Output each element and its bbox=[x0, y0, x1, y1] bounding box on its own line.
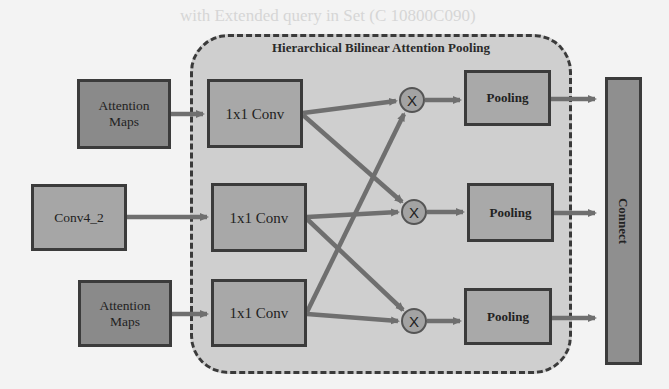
multiply-symbol: X bbox=[407, 92, 417, 109]
conv4-2-label: Conv4_2 bbox=[54, 210, 104, 226]
multiply-symbol: X bbox=[409, 313, 419, 330]
conv-1x1-a-label: 1x1 Conv bbox=[226, 106, 285, 122]
conv-1x1-b-label: 1x1 Conv bbox=[230, 210, 289, 226]
connect-label: Connect bbox=[615, 198, 631, 244]
pooling-3-box: Pooling bbox=[464, 288, 552, 345]
arrow-conv-c-to-x3 bbox=[307, 314, 398, 321]
multiply-icon-2: X bbox=[401, 199, 427, 225]
conv-1x1-a-box: 1x1 Conv bbox=[207, 79, 303, 148]
attention-maps-bottom-label: Attention Maps bbox=[90, 298, 160, 330]
attention-maps-top-box: Attention Maps bbox=[77, 79, 171, 149]
multiply-icon-3: X bbox=[401, 308, 427, 334]
arrow-conv-a-to-x2 bbox=[303, 115, 402, 202]
pooling-2-box: Pooling bbox=[467, 183, 554, 242]
pooling-1-box: Pooling bbox=[464, 70, 551, 126]
pooling-2-label: Pooling bbox=[490, 205, 532, 221]
multiply-symbol: X bbox=[409, 204, 419, 221]
arrow-conv-a-to-x1 bbox=[303, 101, 396, 113]
conv-1x1-b-box: 1x1 Conv bbox=[211, 183, 307, 252]
attention-maps-top-label: Attention Maps bbox=[89, 98, 159, 130]
multiply-icon-1: X bbox=[399, 87, 425, 113]
conv-1x1-c-label: 1x1 Conv bbox=[230, 305, 289, 321]
conv-1x1-c-box: 1x1 Conv bbox=[211, 279, 307, 347]
conv4-2-box: Conv4_2 bbox=[31, 184, 127, 251]
pooling-3-label: Pooling bbox=[487, 309, 529, 325]
pooling-1-label: Pooling bbox=[487, 90, 529, 106]
arrow-conv-b-to-x3 bbox=[307, 219, 403, 310]
attention-maps-bottom-box: Attention Maps bbox=[78, 280, 172, 347]
